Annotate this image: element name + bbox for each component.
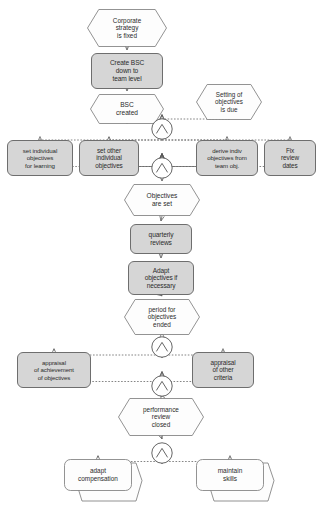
- function-adapt-objectives-if-necessary[interactable]: Adapt objectives if necessary: [128, 261, 194, 295]
- event-period-for-objectives-ended[interactable]: period for objectives ended: [124, 299, 200, 335]
- event-label: Corporate strategy is fixed: [87, 9, 167, 47]
- and-connector-icon[interactable]: [151, 375, 173, 397]
- and-connector-icon[interactable]: [151, 442, 173, 464]
- event-label: performance review closed: [118, 398, 204, 436]
- edge-e4-to-f6: [161, 216, 162, 221]
- function-label: Create BSC down to team level: [108, 59, 146, 82]
- process-path-maintain-skills[interactable]: maintain skills: [196, 459, 264, 491]
- function-label: appraisal of achievement of objectives: [32, 359, 76, 381]
- function-label: Fix review dates: [279, 147, 301, 170]
- and-connector-icon[interactable]: [151, 118, 173, 140]
- function-quarterly-reviews[interactable]: quarterly reviews: [130, 224, 192, 254]
- function-label: appraisal of other criteria: [208, 359, 237, 382]
- epc-diagram-canvas: Corporate strategy is fixedCreate BSC do…: [0, 0, 322, 508]
- function-derive-indiv-objectives-from-team-obj[interactable]: derive indiv objectives from team obj.: [196, 140, 258, 176]
- process-path-adapt-compensation[interactable]: adapt compensation: [64, 459, 132, 491]
- function-create-bsc-down-to-team-level[interactable]: Create BSC down to team level: [91, 53, 163, 89]
- edge-f7-to-e5: [161, 295, 162, 296]
- event-label: period for objectives ended: [124, 299, 200, 335]
- function-appraisal-of-other-criteria[interactable]: appraisal of other criteria: [192, 352, 254, 388]
- process-path-label: adapt compensation: [64, 459, 132, 491]
- function-label: quarterly reviews: [147, 231, 176, 247]
- function-set-individual-objectives-for-learning[interactable]: set individual objectives for learning: [7, 140, 73, 176]
- event-objectives-are-set[interactable]: Objectives are set: [124, 184, 200, 216]
- event-performance-review-closed[interactable]: performance review closed: [118, 398, 204, 436]
- function-fix-review-dates[interactable]: Fix review dates: [264, 140, 316, 176]
- function-label: set other individual objectives: [93, 147, 124, 170]
- function-label: set individual objectives for learning: [21, 147, 59, 169]
- event-corporate-strategy-is-fixed[interactable]: Corporate strategy is fixed: [87, 9, 167, 47]
- function-label: Adapt objectives if necessary: [143, 267, 180, 290]
- function-set-other-individual-objectives[interactable]: set other individual objectives: [79, 140, 139, 176]
- and-connector-icon[interactable]: [151, 157, 173, 179]
- and-connector-icon[interactable]: [151, 336, 173, 358]
- event-label: Objectives are set: [124, 184, 200, 216]
- function-appraisal-of-achievement-of-objectives[interactable]: appraisal of achievement of objectives: [17, 352, 91, 388]
- function-label: derive indiv objectives from team obj.: [205, 147, 248, 169]
- event-setting-of-objectives-is-due[interactable]: Setting of objectives is due: [196, 84, 262, 120]
- process-path-label: maintain skills: [196, 459, 264, 491]
- event-label: Setting of objectives is due: [196, 84, 262, 120]
- edge-e6-to-g5: [161, 436, 162, 439]
